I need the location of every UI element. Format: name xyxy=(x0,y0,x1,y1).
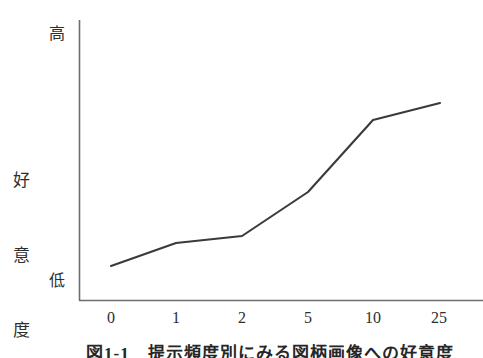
figure-container: 好 意 度 高 低 01251025 図1-1 提示頻度別にみる図柄画像への好意… xyxy=(0,0,483,358)
figure-caption: 図1-1 提示頻度別にみる図柄画像への好意度 xyxy=(86,344,454,358)
x-tick-label-5: 5 xyxy=(288,309,328,327)
x-tick-label-2: 2 xyxy=(222,309,262,327)
figure-caption-clip: 図1-1 提示頻度別にみる図柄画像への好意度 xyxy=(0,344,483,358)
x-tick-label-1: 1 xyxy=(156,309,196,327)
x-tick-label-25: 25 xyxy=(419,309,459,327)
x-tick-label-0: 0 xyxy=(91,309,131,327)
data-series-line xyxy=(111,103,440,266)
plot-area xyxy=(0,0,483,358)
x-tick-label-10: 10 xyxy=(353,309,393,327)
